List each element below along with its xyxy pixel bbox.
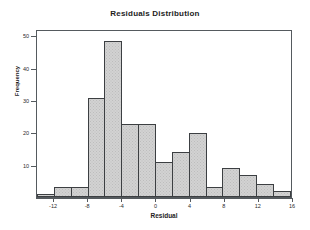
histogram-bar: [189, 133, 207, 197]
plot-area: [36, 30, 292, 198]
x-tick-label: -8: [75, 203, 99, 209]
histogram-bar: [239, 175, 257, 197]
x-tick-label: -4: [109, 203, 133, 209]
histogram-bar: [138, 124, 156, 197]
histogram-bar: [206, 187, 224, 197]
histogram-chart: Residuals Distribution 1020304050 Freque…: [0, 0, 310, 230]
y-tick: [31, 69, 36, 70]
histogram-bar: [88, 98, 106, 197]
y-axis-line: [36, 30, 37, 198]
y-tick: [31, 133, 36, 134]
histogram-bar: [54, 187, 72, 197]
x-tick-label: 16: [280, 203, 304, 209]
y-tick-label: 20: [13, 130, 29, 136]
histogram-bar: [273, 191, 291, 197]
x-axis-title: Residual: [36, 212, 292, 219]
histogram-bar: [256, 184, 274, 197]
histogram-bar: [172, 152, 190, 197]
histogram-bar: [155, 162, 173, 197]
chart-title: Residuals Distribution: [0, 9, 310, 18]
x-tick: [190, 198, 191, 202]
x-tick-label: 12: [246, 203, 270, 209]
x-tick: [292, 198, 293, 202]
histogram-bar: [104, 41, 122, 197]
y-tick-label: 50: [13, 33, 29, 39]
x-tick: [87, 198, 88, 202]
x-tick: [224, 198, 225, 202]
histogram-bar: [121, 124, 139, 197]
x-tick-label: 0: [143, 203, 167, 209]
x-tick-label: 4: [178, 203, 202, 209]
bar-series: [37, 31, 291, 197]
y-tick: [31, 166, 36, 167]
x-axis-line: [36, 198, 292, 199]
x-tick: [53, 198, 54, 202]
histogram-bar: [37, 194, 55, 197]
y-tick: [31, 101, 36, 102]
histogram-bar: [71, 187, 89, 197]
y-axis-title: Frequency: [14, 46, 20, 116]
x-tick-label: 8: [212, 203, 236, 209]
x-tick: [121, 198, 122, 202]
histogram-bar: [222, 168, 240, 197]
x-tick-label: -12: [41, 203, 65, 209]
x-tick: [258, 198, 259, 202]
y-tick: [31, 36, 36, 37]
y-tick-label: 10: [13, 163, 29, 169]
x-tick: [155, 198, 156, 202]
